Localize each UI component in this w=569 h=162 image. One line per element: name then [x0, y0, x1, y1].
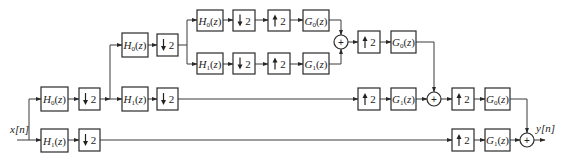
input-label: x[n]: [9, 123, 29, 135]
filter-label: H0(z): [197, 15, 221, 29]
plus-sign: +: [431, 94, 437, 105]
s1-g1-block: G1(z): [485, 129, 510, 151]
downsample-factor: 2: [91, 134, 97, 146]
s1-high-up-block: 2: [452, 129, 474, 151]
upsample-factor: 2: [280, 58, 286, 70]
output-label: y[n]: [535, 122, 555, 134]
downsample-factor: 2: [91, 93, 97, 105]
a2-h0-block: H0(z): [122, 33, 148, 57]
wire-input-to-h0: [29, 99, 41, 140]
plus-sign: +: [524, 135, 530, 146]
s2-g0-block: G0(z): [391, 31, 416, 53]
a2-h0-down-block: 2: [157, 34, 178, 56]
filter-label: H0(z): [42, 93, 66, 107]
block-frame: [358, 88, 380, 110]
upsample-factor: 2: [464, 134, 470, 146]
wire-to-a2h0: [110, 45, 122, 99]
a3-h0-down-block: 2: [233, 10, 255, 31]
wire-s3g1-sum: [329, 49, 341, 64]
filter-label: G0(z): [304, 15, 327, 29]
block-frame: [452, 88, 474, 110]
upsample-factor: 2: [370, 93, 376, 105]
sum-level3: +: [334, 35, 348, 49]
a3-h1-down-block: 2: [233, 53, 255, 74]
downsample-factor: 2: [245, 15, 251, 27]
block-frame: [233, 10, 255, 31]
block-frame: [358, 31, 380, 53]
downsample-factor: 2: [245, 58, 251, 70]
a1-h1-down-block: 2: [79, 129, 100, 151]
upsample-factor: 2: [280, 15, 286, 27]
s2-g1-block: G1(z): [391, 88, 416, 110]
filter-label: G0(z): [486, 93, 509, 107]
filter-label: G1(z): [486, 134, 509, 148]
block-frame: [268, 53, 290, 74]
downsample-factor: 2: [169, 39, 175, 51]
sum-output: +: [520, 133, 534, 147]
filter-label: H0(z): [122, 39, 146, 53]
filter-label: G0(z): [392, 36, 415, 50]
a3-h1-block: H1(z): [197, 53, 223, 74]
a3-h0-block: H0(z): [197, 10, 223, 31]
wire-s3g0-sum: [329, 20, 341, 35]
a2-h1-down-block: 2: [157, 88, 178, 110]
block-frame: [233, 53, 255, 74]
sum-level2: +: [427, 92, 441, 106]
s1-low-up-block: 2: [452, 88, 474, 110]
s1-g0-block: G0(z): [485, 88, 510, 110]
s3-h1-up-block: 2: [268, 53, 290, 74]
upsample-factor: 2: [370, 36, 376, 48]
wire-to-a3h1: [187, 45, 197, 64]
block-frame: [157, 88, 178, 110]
s3-g1-block: G1(z): [303, 53, 329, 74]
wire-s1g0-sum: [510, 99, 527, 133]
filter-label: H1(z): [197, 58, 221, 72]
s3-g0-block: G0(z): [303, 10, 329, 31]
a2-h1-block: H1(z): [122, 87, 148, 111]
upsample-factor: 2: [464, 93, 470, 105]
filter-label: G1(z): [304, 58, 327, 72]
downsample-factor: 2: [169, 93, 175, 105]
a1-h0-block: H0(z): [41, 87, 68, 111]
filter-label: H1(z): [122, 93, 146, 107]
filter-bank-diagram: H0(z)2H1(z)2H0(z)2H1(z)2H0(z)2H1(z)22G0(…: [0, 0, 569, 162]
a1-h1-block: H1(z): [41, 129, 68, 152]
block-frame: [268, 10, 290, 31]
wire-to-a3h0: [187, 20, 197, 45]
s3-h0-up-block: 2: [268, 10, 290, 31]
wire-s2g0-sum: [416, 42, 434, 92]
s2-low-up-block: 2: [358, 31, 380, 53]
filter-label: G1(z): [392, 93, 415, 107]
a1-h0-down-block: 2: [79, 88, 100, 110]
filter-label: H1(z): [42, 135, 66, 149]
signal-wires: [17, 20, 545, 140]
block-frame: [157, 34, 178, 56]
block-frame: [452, 129, 474, 151]
plus-sign: +: [338, 37, 344, 48]
block-frame: [79, 129, 100, 151]
block-frame: [79, 88, 100, 110]
blocks-layer: H0(z)2H1(z)2H0(z)2H1(z)2H0(z)2H1(z)22G0(…: [41, 10, 510, 152]
s2-high-up-block: 2: [358, 88, 380, 110]
